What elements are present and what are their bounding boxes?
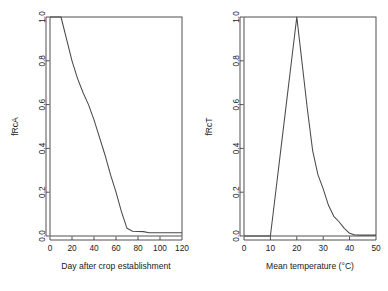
x-tick-label: 20	[67, 243, 77, 253]
y-tick-label: 0.2	[37, 186, 47, 198]
x-tick-label-group: 020406080100120	[48, 243, 190, 253]
data-curve-frct	[244, 17, 376, 236]
y-tick-label: 1.0	[231, 11, 241, 23]
y-tick-label: 0.0	[37, 230, 47, 242]
y-tick-label: 0.6	[37, 98, 47, 110]
x-tick-label: 40	[345, 243, 355, 253]
x-tick-label: 20	[292, 243, 302, 253]
x-axis-title: Day after crop establishment	[61, 261, 171, 271]
x-tick-label: 100	[153, 243, 167, 253]
x-axis-title: Mean temperature (°C)	[266, 261, 354, 271]
x-tick-label: 10	[266, 243, 276, 253]
figure-canvas: 0.00.20.40.60.81.0 020406080100120 Day a…	[0, 0, 388, 291]
x-tick-label: 120	[175, 243, 189, 253]
x-tick-label: 80	[133, 243, 143, 253]
y-tick-group	[240, 17, 244, 236]
y-axis-title: fRcA	[10, 117, 20, 136]
y-tick-label: 1.0	[37, 11, 47, 23]
x-tick-label: 40	[89, 243, 99, 253]
x-tick-group	[50, 237, 182, 241]
chart-panel-frct: 0.00.20.40.60.81.0 01020304050 Mean temp…	[194, 0, 388, 291]
x-tick-label: 30	[319, 243, 329, 253]
y-tick-label: 0.8	[231, 55, 241, 67]
chart-panel-frca: 0.00.20.40.60.81.0 020406080100120 Day a…	[0, 0, 194, 291]
y-tick-label: 0.6	[231, 98, 241, 110]
x-axis-frct: 01020304050	[242, 237, 381, 254]
x-tick-label: 50	[371, 243, 381, 253]
plot-svg-frct: 0.00.20.40.60.81.0 01020304050 Mean temp…	[194, 0, 388, 291]
y-tick-label: 0.2	[231, 186, 241, 198]
x-tick-label: 60	[111, 243, 121, 253]
y-tick-label: 0.8	[37, 55, 47, 67]
y-axis-frct: 0.00.20.40.60.81.0	[231, 11, 244, 242]
x-tick-label: 0	[48, 243, 53, 253]
plot-svg-frca: 0.00.20.40.60.81.0 020406080100120 Day a…	[0, 0, 194, 291]
x-tick-group	[244, 237, 376, 241]
y-tick-label: 0.4	[231, 142, 241, 154]
x-axis-frca: 020406080100120	[48, 237, 190, 254]
data-curve-frca	[50, 17, 182, 233]
y-axis-frca: 0.00.20.40.60.81.0	[37, 11, 50, 242]
y-tick-label-group: 0.00.20.40.60.81.0	[231, 11, 241, 242]
x-tick-label-group: 01020304050	[242, 243, 381, 253]
y-tick-group	[46, 17, 50, 236]
plot-frame	[50, 17, 182, 236]
x-tick-label: 0	[242, 243, 247, 253]
y-tick-label: 0.0	[231, 230, 241, 242]
y-axis-title: fRcT	[204, 117, 214, 136]
y-tick-label: 0.4	[37, 142, 47, 154]
y-tick-label-group: 0.00.20.40.60.81.0	[37, 11, 47, 242]
